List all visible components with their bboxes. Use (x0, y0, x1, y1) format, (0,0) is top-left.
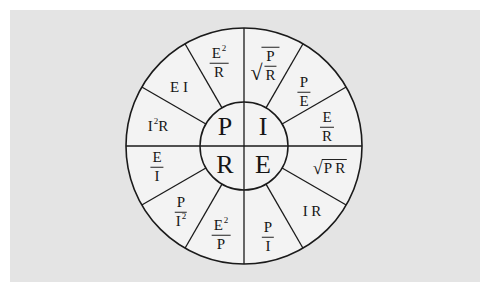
formula-e-squared-over-p: E2P (212, 218, 231, 253)
formula-i-squared-r: I2R (148, 119, 169, 134)
formula-e-over-i: EI (150, 150, 163, 185)
center-label-resistance: R (216, 152, 233, 178)
formula-sqrt-pr: √P R (313, 159, 347, 177)
formula-ir: I R (303, 204, 322, 219)
center-label-power: P (218, 114, 232, 140)
formula-sqrt-p-over-r: √PR (250, 47, 279, 84)
formula-e-squared-over-r: E2R (210, 46, 229, 81)
formula-ei: E I (170, 80, 188, 95)
formula-p-over-i-squared: PI2 (174, 195, 189, 230)
center-label-voltage: E (255, 152, 271, 178)
formula-p-over-e: PE (297, 75, 310, 110)
formula-p-over-i: PI (262, 220, 274, 255)
ohms-law-wheel (0, 0, 489, 291)
center-label-current: I (259, 114, 268, 140)
formula-e-over-r: ER (320, 110, 334, 145)
